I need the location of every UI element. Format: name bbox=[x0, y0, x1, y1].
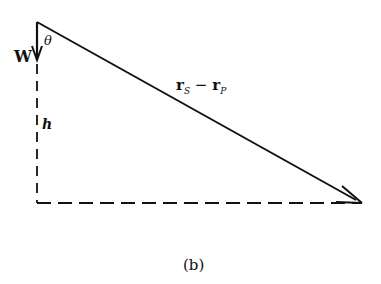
triangle-diagram bbox=[0, 0, 381, 284]
angle-theta-label: θ bbox=[44, 33, 52, 48]
subscript-s: S bbox=[184, 86, 190, 96]
vector-r-s: r bbox=[176, 76, 184, 94]
arrowhead-icon bbox=[336, 186, 362, 203]
vector-label: rS − rP bbox=[176, 76, 226, 96]
height-label: h bbox=[42, 116, 52, 132]
caption-text: (b) bbox=[183, 256, 204, 274]
subscript-p: P bbox=[220, 86, 226, 96]
figure-caption: (b) bbox=[183, 256, 204, 274]
weight-label: W bbox=[14, 47, 32, 66]
minus-sign: − bbox=[195, 76, 208, 94]
vector-r-p: r bbox=[212, 76, 220, 94]
vector-rs-minus-rp-line bbox=[37, 22, 356, 200]
